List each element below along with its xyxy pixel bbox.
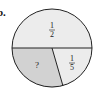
fifth-numerator: 1 [70, 54, 74, 63]
half-numerator: 1 [50, 21, 54, 30]
half-denominator: 2 [50, 30, 54, 39]
unknown-label: ? [35, 60, 39, 70]
fraction-circle-diagram: 1 2 ? 1 5 [0, 0, 94, 93]
fifth-denominator: 5 [70, 63, 74, 72]
